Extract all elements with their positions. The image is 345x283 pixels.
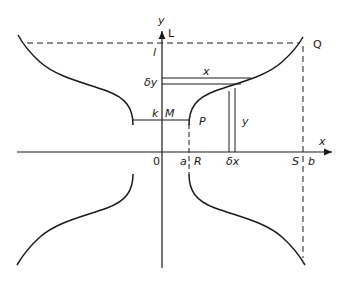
diagram-figure: y L x l δy x k M P y Q 0 a R δx S b	[0, 0, 345, 283]
strip-y-label: y	[241, 115, 249, 128]
y-axis-label: y	[157, 14, 165, 27]
delta-y-label: δy	[144, 76, 158, 89]
b-label: b	[308, 155, 315, 168]
k-label: k	[152, 107, 159, 120]
origin-label: 0	[153, 155, 160, 168]
curve-upper-right	[189, 37, 303, 125]
M-label: M	[165, 107, 175, 120]
x-axis-label: x	[318, 135, 326, 148]
R-label: R	[194, 155, 202, 168]
curve-lower-left	[17, 174, 133, 265]
S-label: S	[292, 155, 299, 168]
curve-lower-right	[189, 174, 305, 265]
delta-x-label: δx	[226, 155, 240, 168]
curve-upper-left	[18, 35, 133, 125]
l-label: l	[153, 46, 156, 59]
P-label: P	[199, 115, 206, 128]
L-label: L	[168, 27, 175, 40]
a-label: a	[180, 155, 187, 168]
Q-label: Q	[313, 38, 322, 51]
strip-x-label: x	[202, 65, 210, 78]
